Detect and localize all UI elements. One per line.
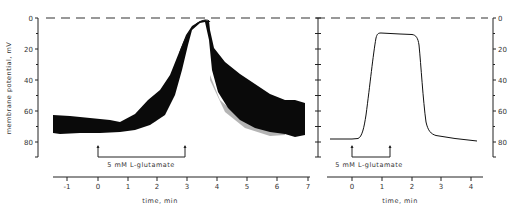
- y-axis-title: membrane potential, mV: [5, 42, 13, 135]
- y-tick-label: 0: [29, 15, 33, 23]
- x-tick-label: 0: [350, 183, 354, 191]
- y-tick-label: 60: [498, 108, 507, 116]
- x-tick-label: 3: [439, 183, 443, 191]
- figure: 0 20 40 60 80 membrane potential, mV 5 m…: [0, 0, 523, 212]
- x-tick-label: 2: [155, 183, 159, 191]
- left-trace: [53, 20, 305, 137]
- right-stimulus-bracket: 5 mM L-glutamate: [335, 145, 403, 169]
- right-trace: [330, 33, 477, 141]
- left-stimulus-bracket: 5 mM L-glutamate: [97, 145, 187, 169]
- y-tick-label: 20: [24, 46, 33, 54]
- x-tick-label: 5: [245, 183, 249, 191]
- y-tick-label: 40: [498, 77, 507, 85]
- stimulus-label: 5 mM L-glutamate: [335, 161, 403, 169]
- x-tick-label: 3: [185, 183, 189, 191]
- x-tick-label: 4: [469, 183, 474, 191]
- middle-y-axis: [315, 18, 321, 157]
- x-tick-label: -1: [64, 183, 71, 191]
- x-tick-label: 7: [306, 183, 310, 191]
- left-x-axis: -1 0 1 2 3 4 5 6 7 time, min: [53, 177, 310, 205]
- right-x-axis: 0 1 2 3 4 time, min: [327, 177, 483, 205]
- y-tick-label: 80: [498, 139, 507, 147]
- x-tick-label: 2: [410, 183, 414, 191]
- y-tick-label: 80: [24, 139, 33, 147]
- x-tick-label: 6: [275, 183, 280, 191]
- x-axis-title: time, min: [142, 197, 178, 205]
- y-tick-label: 60: [24, 108, 33, 116]
- y-tick-label: 20: [498, 46, 507, 54]
- x-tick-label: 1: [126, 183, 130, 191]
- y-tick-label: 0: [498, 15, 502, 23]
- x-axis-title: time, min: [382, 197, 418, 205]
- x-tick-label: 0: [96, 183, 100, 191]
- stimulus-label: 5 mM L-glutamate: [107, 161, 175, 169]
- left-y-axis: 0 20 40 60 80 membrane potential, mV: [5, 15, 38, 158]
- x-tick-label: 4: [215, 183, 220, 191]
- x-tick-label: 1: [380, 183, 384, 191]
- right-y-axis: 0 20 40 60 80: [493, 15, 507, 158]
- y-tick-label: 40: [24, 77, 33, 85]
